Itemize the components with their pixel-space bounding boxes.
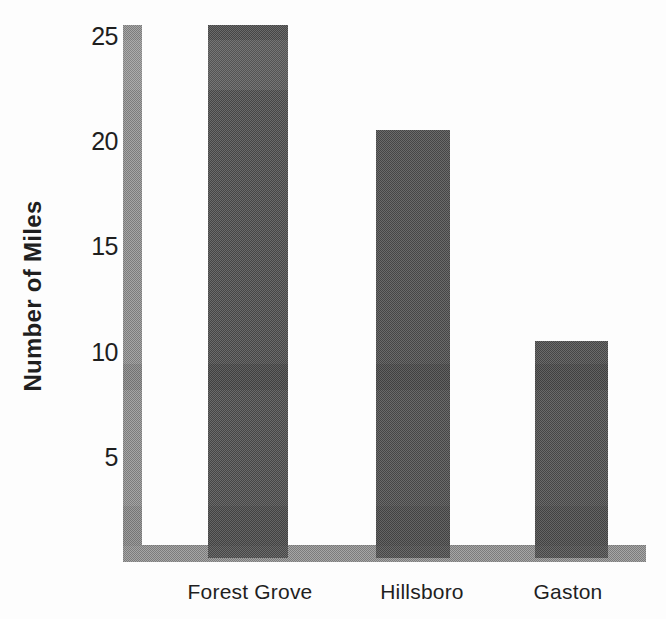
scan-artifact-band xyxy=(535,506,608,546)
scan-artifact-band xyxy=(376,364,450,390)
x-label-forest-grove: Forest Grove xyxy=(188,581,313,602)
y-tick-25: 25 xyxy=(38,23,118,49)
scan-artifact-band xyxy=(208,364,288,390)
bar-gaston xyxy=(535,341,608,558)
x-label-hillsboro: Hillsboro xyxy=(380,581,464,602)
y-tick-20: 20 xyxy=(38,128,118,154)
scan-artifact-band xyxy=(376,506,450,546)
x-label-gaston: Gaston xyxy=(534,581,603,602)
scan-artifact-band xyxy=(535,364,608,390)
scan-artifact-band xyxy=(123,40,142,90)
scan-artifact-band xyxy=(123,506,142,546)
scan-artifact-band xyxy=(123,364,142,390)
y-axis-label: Number of Miles xyxy=(18,171,48,421)
y-tick-10: 10 xyxy=(38,339,118,365)
bar-forest-grove xyxy=(208,25,288,558)
scan-artifact-band xyxy=(208,40,288,90)
bar-hillsboro xyxy=(376,130,450,558)
y-tick-15: 15 xyxy=(38,233,118,259)
bar-chart: Number of Miles Forest GroveHillsboroGas… xyxy=(0,0,666,619)
y-axis-line xyxy=(123,25,142,562)
y-tick-5: 5 xyxy=(38,444,118,470)
scan-artifact-band xyxy=(208,506,288,546)
